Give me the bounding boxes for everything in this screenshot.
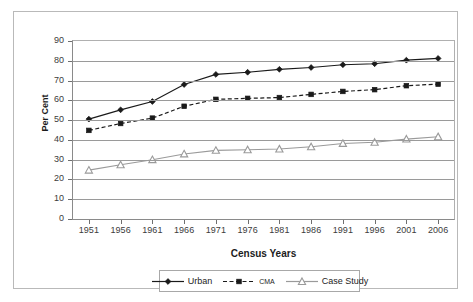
x-tick-mark bbox=[216, 220, 217, 224]
x-tick-mark bbox=[311, 220, 312, 224]
data-point-marker bbox=[237, 279, 242, 284]
gridline bbox=[73, 81, 454, 82]
series-layer bbox=[73, 41, 454, 219]
data-point-marker bbox=[182, 104, 187, 109]
data-point-marker bbox=[181, 82, 187, 88]
data-point-marker bbox=[309, 92, 314, 97]
x-tick-mark bbox=[184, 220, 185, 224]
data-point-marker bbox=[341, 89, 346, 94]
data-point-marker bbox=[372, 87, 377, 92]
x-axis-title: Census Years bbox=[72, 248, 455, 259]
gridline bbox=[73, 100, 454, 101]
data-point-marker bbox=[276, 66, 282, 72]
gridline bbox=[73, 179, 454, 180]
data-point-marker bbox=[118, 107, 124, 113]
y-tick-label: 30 bbox=[26, 155, 64, 164]
y-tick-label: 20 bbox=[26, 174, 64, 183]
legend-swatch-square-icon bbox=[222, 276, 256, 287]
y-tick-label: 40 bbox=[26, 135, 64, 144]
y-tick-label: 50 bbox=[26, 115, 64, 124]
x-tick-mark bbox=[406, 220, 407, 224]
legend-entry-urban[interactable]: Urban bbox=[151, 276, 213, 287]
data-point-marker bbox=[87, 128, 92, 133]
data-point-marker bbox=[308, 65, 314, 71]
legend-swatch-diamond-icon bbox=[151, 276, 185, 287]
x-tick-mark bbox=[89, 220, 90, 224]
gridline bbox=[73, 140, 454, 141]
x-tick-mark bbox=[279, 220, 280, 224]
data-point-marker bbox=[165, 278, 171, 284]
x-tick-mark bbox=[375, 220, 376, 224]
legend-entry-case-study[interactable]: Case Study bbox=[285, 276, 369, 287]
legend-label: Urban bbox=[188, 276, 213, 286]
gridline bbox=[73, 120, 454, 121]
data-point-marker bbox=[340, 62, 346, 68]
y-tick-label: 90 bbox=[26, 36, 64, 45]
x-tick-mark bbox=[343, 220, 344, 224]
legend-swatch-triangle-icon bbox=[285, 276, 319, 287]
gridline bbox=[73, 160, 454, 161]
gridline bbox=[73, 61, 454, 62]
chart-legend: UrbanCMACase Study bbox=[159, 270, 360, 292]
x-tick-mark bbox=[248, 220, 249, 224]
x-tick-mark bbox=[152, 220, 153, 224]
y-tick-label: 10 bbox=[26, 194, 64, 203]
y-tick-label: 70 bbox=[26, 76, 64, 85]
figure-border: Per Cent 0102030405060708090 19511956196… bbox=[13, 11, 458, 289]
gridline bbox=[73, 199, 454, 200]
x-tick-mark bbox=[438, 220, 439, 224]
series-cma bbox=[87, 82, 441, 133]
y-tick-label: 80 bbox=[26, 56, 64, 65]
data-point-marker bbox=[118, 121, 123, 126]
x-tick-label: 2006 bbox=[418, 225, 458, 235]
series-line bbox=[89, 137, 438, 170]
legend-entry-cma[interactable]: CMA bbox=[222, 276, 275, 287]
data-point-marker bbox=[436, 82, 441, 87]
data-point-marker bbox=[213, 72, 219, 78]
plot-area bbox=[72, 40, 455, 220]
legend-label: Case Study bbox=[322, 276, 369, 286]
y-tick-label: 0 bbox=[26, 214, 64, 223]
chart-figure: Per Cent 0102030405060708090 19511956196… bbox=[0, 0, 473, 302]
data-point-marker bbox=[245, 69, 251, 75]
legend-label: CMA bbox=[259, 278, 275, 285]
x-tick-mark bbox=[121, 220, 122, 224]
data-point-marker bbox=[404, 83, 409, 88]
y-tick-label: 60 bbox=[26, 95, 64, 104]
series-line bbox=[89, 84, 438, 130]
series-urban bbox=[86, 56, 441, 123]
